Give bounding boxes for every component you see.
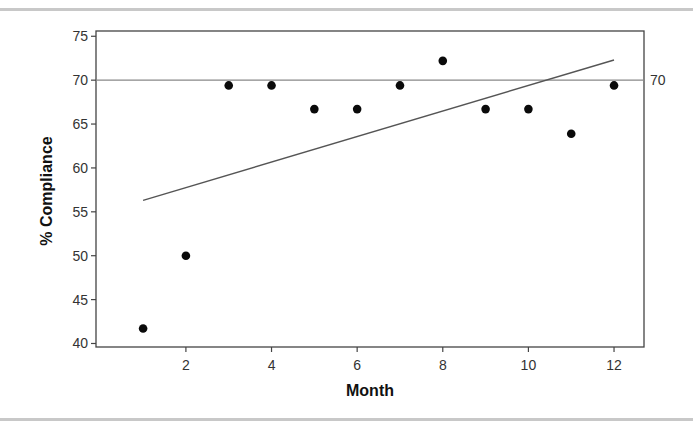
x-axis-title: Month [346, 382, 394, 399]
y-tick-label: 40 [72, 335, 88, 351]
data-point [353, 105, 362, 114]
data-point [139, 324, 148, 333]
y-tick-label: 60 [72, 160, 88, 176]
trend-line [143, 60, 614, 200]
y-axis-title: % Compliance [38, 136, 55, 245]
x-tick-label: 4 [268, 357, 276, 373]
scatter-chart: 40455055606570752468101270Month% Complia… [0, 0, 693, 422]
data-point [224, 81, 233, 90]
y-tick-label: 45 [72, 292, 88, 308]
x-tick-label: 12 [606, 357, 622, 373]
reference-line-label: 70 [650, 72, 666, 88]
y-tick-label: 70 [72, 72, 88, 88]
plot-frame [96, 31, 644, 347]
data-point [524, 105, 533, 114]
data-point [438, 57, 447, 66]
y-tick-label: 65 [72, 116, 88, 132]
data-point [610, 81, 619, 90]
y-tick-label: 55 [72, 204, 88, 220]
x-tick-label: 10 [521, 357, 537, 373]
data-point [267, 81, 276, 90]
y-tick-label: 75 [72, 28, 88, 44]
data-point [567, 129, 576, 138]
x-tick-label: 8 [439, 357, 447, 373]
data-point [396, 81, 405, 90]
data-point [182, 251, 191, 260]
data-point [310, 105, 319, 114]
y-tick-label: 50 [72, 248, 88, 264]
x-tick-label: 6 [353, 357, 361, 373]
x-tick-label: 2 [182, 357, 190, 373]
data-point [481, 105, 490, 114]
